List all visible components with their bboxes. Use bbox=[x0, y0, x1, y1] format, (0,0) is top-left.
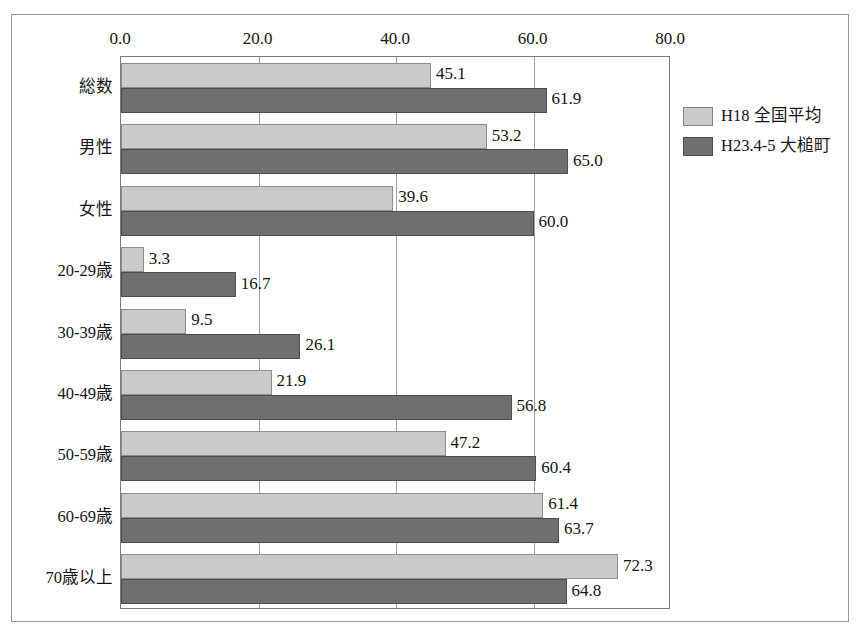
legend: H18 全国平均H23.4-5 大槌町 bbox=[683, 101, 843, 161]
x-tick-label: 60.0 bbox=[518, 29, 548, 49]
plot-area bbox=[120, 56, 670, 609]
legend-swatch-icon bbox=[683, 107, 713, 126]
y-axis-category-labels: 総数男性女性20-29歳30-39歳40-49歳50-59歳60-69歳70歳以… bbox=[12, 56, 113, 609]
figure-frame: 0.020.040.060.080.0 総数男性女性20-29歳30-39歳40… bbox=[11, 14, 849, 622]
bar-chart: 0.020.040.060.080.0 総数男性女性20-29歳30-39歳40… bbox=[12, 15, 848, 621]
bar bbox=[121, 272, 236, 297]
category-label: 20-29歳 bbox=[58, 261, 114, 281]
x-tick-label: 20.0 bbox=[243, 29, 273, 49]
bar bbox=[121, 124, 487, 149]
bar bbox=[121, 309, 186, 334]
category-label: 女性 bbox=[79, 200, 113, 220]
bar bbox=[121, 518, 559, 543]
bar bbox=[121, 456, 536, 481]
category-label: 70歳以上 bbox=[46, 568, 114, 588]
x-tick-label: 40.0 bbox=[380, 29, 410, 49]
x-tick-label: 0.0 bbox=[109, 29, 130, 49]
category-label: 総数 bbox=[79, 77, 113, 97]
bar bbox=[121, 554, 618, 579]
bar bbox=[121, 370, 272, 395]
bar bbox=[121, 186, 393, 211]
x-tick-label: 80.0 bbox=[655, 29, 685, 49]
legend-item: H23.4-5 大槌町 bbox=[683, 131, 843, 161]
bar bbox=[121, 579, 567, 604]
bar bbox=[121, 211, 534, 236]
legend-swatch-icon bbox=[683, 137, 713, 156]
category-label: 40-49歳 bbox=[58, 384, 114, 404]
bar bbox=[121, 493, 543, 518]
category-label: 男性 bbox=[79, 138, 113, 158]
bar bbox=[121, 88, 547, 113]
category-label: 60-69歳 bbox=[58, 507, 114, 527]
legend-label: H18 全国平均 bbox=[721, 106, 822, 126]
bar bbox=[121, 395, 512, 420]
bar bbox=[121, 149, 568, 174]
category-label: 30-39歳 bbox=[58, 323, 114, 343]
bar bbox=[121, 431, 446, 456]
category-label: 50-59歳 bbox=[58, 445, 114, 465]
x-axis: 0.020.040.060.080.0 bbox=[12, 29, 848, 53]
bar bbox=[121, 63, 431, 88]
bar bbox=[121, 247, 144, 272]
bar bbox=[121, 334, 300, 359]
legend-label: H23.4-5 大槌町 bbox=[721, 136, 831, 156]
legend-item: H18 全国平均 bbox=[683, 101, 843, 131]
